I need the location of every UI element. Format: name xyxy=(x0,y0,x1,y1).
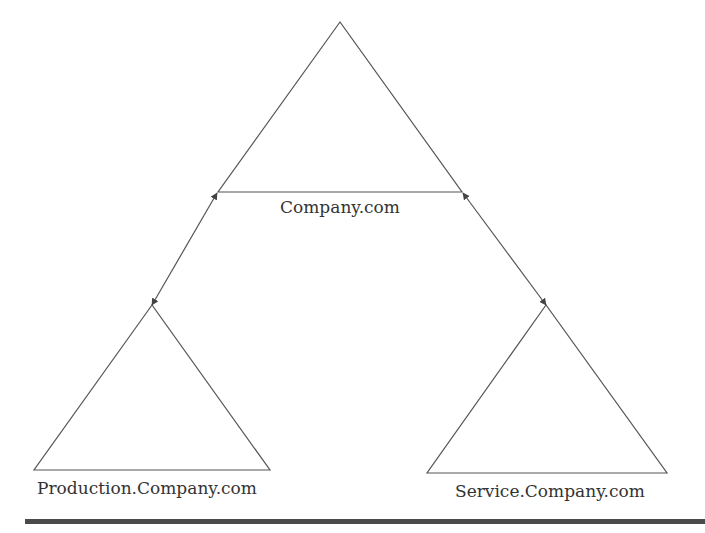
production-domain-label: Production.Company.com xyxy=(37,478,257,498)
service-domain-label: Service.Company.com xyxy=(455,481,645,501)
service-domain-triangle xyxy=(427,305,667,473)
trust-arrow-left xyxy=(152,193,217,305)
trust-arrow-right xyxy=(463,193,546,305)
root-domain-triangle xyxy=(218,22,462,192)
production-domain-triangle xyxy=(34,305,270,470)
bottom-rule-divider xyxy=(25,519,705,524)
root-domain-label: Company.com xyxy=(280,197,400,217)
